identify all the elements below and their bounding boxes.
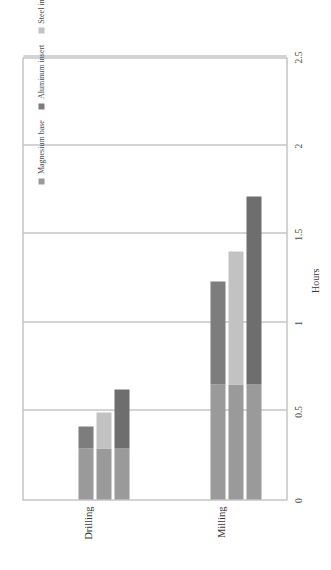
bar-segment-base [114,448,129,499]
bar-segment-insert [114,389,129,447]
bar-segment-insert [78,426,93,447]
bar-stack [210,281,225,499]
legend-label: Steel insert [37,0,45,23]
bar-segment-base [96,448,111,499]
legend-item[interactable]: Steel insert [37,0,45,33]
bar-stack [246,196,261,499]
gridline [23,144,286,145]
value-axis-ticks: 00.511.522.5 [293,57,309,500]
bar-stack [96,412,111,499]
bar-segment-base [228,384,243,499]
rotated-chart-container: Magnesium baseAluminum insertSteel inser… [0,0,331,570]
value-tick-label: 2 [293,143,303,148]
legend-swatch-icon [38,178,44,184]
legend-item[interactable]: Aluminum insert [37,44,45,108]
value-tick-label: 0 [293,498,303,503]
bar-segment-base [78,448,93,499]
value-axis-title: Hours [309,268,320,292]
bar-segment-base [210,384,225,499]
category-label: Milling [215,506,226,538]
bar-stack [114,389,129,499]
bar-stack [78,426,93,499]
value-tick-label: 1 [293,320,303,325]
bar-segment-insert [96,412,111,447]
category-label: Drilling [83,506,94,539]
legend: Magnesium baseAluminum insertSteel inser… [37,0,45,184]
category-axis-ticks: DrillingMilling [22,500,287,570]
legend-label: Magnesium base [37,120,45,174]
chart-canvas: Magnesium baseAluminum insertSteel inser… [0,0,331,570]
bar-segment-base [246,384,261,499]
value-tick-label: 2.5 [293,51,303,63]
legend-item[interactable]: Magnesium base [37,120,45,184]
bar-segment-insert [210,281,225,384]
bar-stack [228,251,243,499]
legend-swatch-icon [38,103,44,109]
value-tick-label: 0.5 [293,405,303,417]
gridline [23,55,286,56]
bar-segment-insert [246,196,261,384]
legend-label: Aluminum insert [37,44,45,98]
plot-area: Magnesium baseAluminum insertSteel inser… [22,57,287,500]
value-tick-label: 1.5 [293,228,303,240]
bar-segment-insert [228,251,243,384]
legend-swatch-icon [38,27,44,33]
